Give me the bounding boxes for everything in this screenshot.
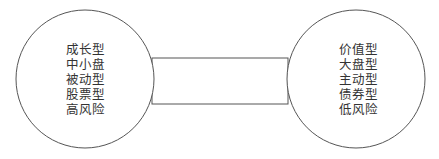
left-label-3: 被动型 <box>55 72 115 87</box>
left-label-1: 成长型 <box>55 42 115 57</box>
right-circle-labels: 价值型 大盘型 主动型 债券型 低风险 <box>328 42 388 117</box>
right-label-3: 主动型 <box>328 72 388 87</box>
left-circle-labels: 成长型 中小盘 被动型 股票型 高风险 <box>55 42 115 117</box>
left-label-5: 高风险 <box>55 102 115 117</box>
right-label-2: 大盘型 <box>328 57 388 72</box>
right-label-1: 价值型 <box>328 42 388 57</box>
left-label-2: 中小盘 <box>55 57 115 72</box>
connector-bar <box>152 58 288 104</box>
right-label-5: 低风险 <box>328 102 388 117</box>
left-label-4: 股票型 <box>55 87 115 102</box>
right-label-4: 债券型 <box>328 87 388 102</box>
